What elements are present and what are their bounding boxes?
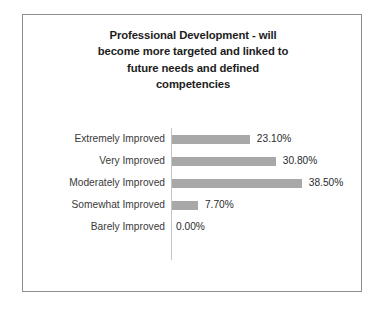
bar-row: Barely Improved 0.00% [23,216,363,238]
chart-title-line-2: become more targeted and linked to [41,43,345,59]
bar-track: 0.00% [172,216,363,238]
bar-value-label: 0.00% [176,216,205,238]
bar-value-label: 7.70% [205,194,234,216]
bar-row: Somewhat Improved 7.70% [23,194,363,216]
chart-title-line-1: Professional Development - will [41,27,345,43]
bar-value-label: 30.80% [283,150,318,172]
bar-track: 30.80% [172,150,363,172]
bar-track: 23.10% [172,128,363,150]
bar-track: 7.70% [172,194,363,216]
category-label: Extremely Improved [23,128,165,150]
bar-value-label: 23.10% [257,128,292,150]
category-label: Barely Improved [23,216,165,238]
bar-very-improved [172,157,276,166]
bar-extremely-improved [172,135,250,144]
chart-title-line-3: future needs and defined [41,60,345,76]
bar-row: Extremely Improved 23.10% [23,128,363,150]
category-label: Somewhat Improved [23,194,165,216]
plot-area: Extremely Improved 23.10% Very Improved … [23,128,363,276]
chart-frame: Professional Development - will become m… [22,14,362,292]
chart-title: Professional Development - will become m… [41,27,345,92]
bar-moderately-improved [172,179,302,188]
bar-track: 38.50% [172,172,363,194]
bar-somewhat-improved [172,201,198,210]
category-label: Very Improved [23,150,165,172]
chart-title-line-4: competencies [41,76,345,92]
bar-row: Moderately Improved 38.50% [23,172,363,194]
category-label: Moderately Improved [23,172,165,194]
bar-row: Very Improved 30.80% [23,150,363,172]
bar-value-label: 38.50% [309,172,344,194]
